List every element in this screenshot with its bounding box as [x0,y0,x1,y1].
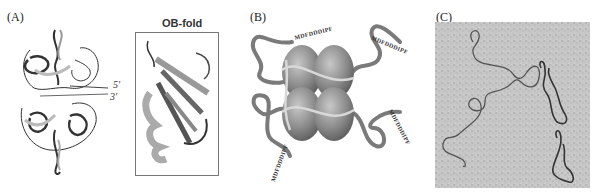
dna-strands [435,22,590,188]
dna-electron-micrograph [435,22,590,188]
panel-a: (A) 5' 3' OB-fold [0,0,215,193]
ob-fold-inset [135,32,219,176]
five-prime-label: 5' [113,79,120,90]
ob-fold-title: OB-fold [162,17,202,29]
ssb-ribbon-structure [0,0,120,193]
ob-fold-ribbon [136,33,218,175]
panel-c: (C) [420,0,595,193]
three-prime-label: 3' [110,91,117,102]
panel-b: (B) MDFDDDIPF MDFDDDIPF MDFDDDIPF MDFDDD… [230,0,420,193]
